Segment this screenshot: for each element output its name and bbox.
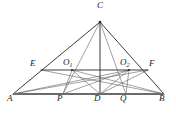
marker-O2 [128, 69, 130, 71]
label-point-Q: Q [120, 94, 127, 103]
label-point-C: C [97, 1, 103, 10]
label-O1-subscript: 1 [70, 62, 73, 68]
marker-O1 [71, 69, 73, 71]
label-point-A: A [7, 94, 13, 103]
label-point-B: B [159, 94, 165, 103]
label-point-F: F [149, 59, 155, 68]
marker-C [99, 21, 102, 24]
geometry-figure: A B C D P Q E F O1 O2 [0, 0, 176, 115]
label-point-E: E [30, 59, 36, 68]
label-point-O2: O2 [120, 58, 130, 68]
segment-A-O2 [13, 70, 129, 94]
label-O1-base: O [63, 57, 70, 67]
segment-D-O2b [100, 70, 148, 94]
label-point-O1: O1 [63, 58, 73, 68]
label-O2-subscript: 2 [127, 62, 130, 68]
side-AC [13, 22, 100, 94]
label-point-P: P [57, 94, 63, 103]
label-point-D: D [94, 94, 101, 103]
label-O2-base: O [120, 57, 127, 67]
